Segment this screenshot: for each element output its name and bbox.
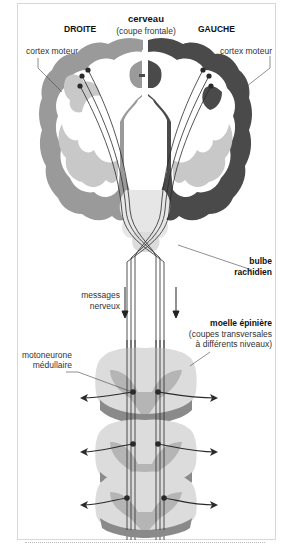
label-bulbe: bulbe xyxy=(230,256,272,266)
spinal-section-1 xyxy=(95,347,196,424)
label-coupes-transversales: (coupes transversales xyxy=(180,329,272,339)
label-gauche: GAUCHE xyxy=(198,24,235,34)
spinal-section-3 xyxy=(95,471,196,538)
label-rachidien: rachidien xyxy=(220,267,272,277)
label-nerveux: nerveux xyxy=(68,301,120,311)
label-cortex-moteur-right: cortex moteur xyxy=(210,46,272,56)
label-droite: DROITE xyxy=(64,24,96,34)
title-cerveau: cerveau xyxy=(120,14,172,24)
label-differents-niveaux: à différents niveaux) xyxy=(180,339,272,349)
spinal-sections xyxy=(95,347,196,538)
caption-cutoff xyxy=(25,542,265,546)
label-messages: messages xyxy=(68,290,120,300)
subtitle-coupe-frontale: (coupe frontale) xyxy=(112,26,180,36)
label-motoneurone: motoneurone xyxy=(16,350,72,360)
label-medullaire: médullaire xyxy=(16,360,72,370)
down-arrows xyxy=(122,287,179,318)
label-moelle-epiniere: moelle épinière xyxy=(190,318,272,328)
label-cortex-moteur-left: cortex moteur xyxy=(26,46,78,56)
